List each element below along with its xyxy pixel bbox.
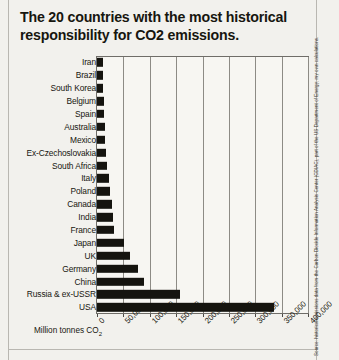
category-label: UK [85, 251, 96, 261]
category-label: South Africa [52, 161, 96, 171]
bar [97, 239, 124, 247]
bar [97, 71, 103, 79]
bar-row: France [0, 224, 339, 237]
category-label: Poland [71, 186, 96, 196]
category-label: South Korea [51, 83, 96, 93]
bar [97, 123, 105, 131]
bar-row: South Africa [0, 159, 339, 172]
source-note: Source: historical emissions data from t… [314, 37, 319, 356]
bar-row: India [0, 211, 339, 224]
category-label: Japan [74, 238, 96, 248]
bar [97, 200, 112, 208]
bar [97, 226, 114, 234]
bar-row: Poland [0, 185, 339, 198]
tick-label: 0 [97, 316, 106, 325]
bar [97, 252, 130, 260]
bar [97, 187, 110, 195]
bar-rows: IranBrazilSouth KoreaBelgiumSpainAustral… [0, 56, 339, 314]
bar-row: Iran [0, 56, 339, 69]
category-label: USA [79, 302, 96, 312]
category-label: Italy [81, 173, 96, 183]
bar [97, 277, 144, 285]
bar [97, 290, 180, 298]
category-label: France [71, 225, 96, 235]
bar-row: Italy [0, 172, 339, 185]
category-label: Australia [64, 122, 96, 132]
category-label: Ex-Czechoslovakia [26, 148, 96, 158]
category-label: Spain [75, 109, 96, 119]
chart-title-line-2: responsibility for CO2 emissions. [20, 26, 292, 44]
bar-chart: IranBrazilSouth KoreaBelgiumSpainAustral… [0, 52, 339, 322]
category-label: Belgium [66, 96, 96, 106]
bar [97, 84, 103, 92]
bar-row: UK [0, 249, 339, 262]
x-axis-title: Million tonnes CO2 [34, 326, 102, 337]
x-axis-title-text: Million tonnes CO [34, 326, 99, 335]
bar-row: Spain [0, 108, 339, 121]
x-axis-ticks: 050,000100,000150,000200,000250,000300,0… [96, 314, 310, 360]
bar [97, 58, 103, 66]
tick-mark [203, 314, 204, 317]
bar [97, 161, 107, 169]
bar [97, 136, 105, 144]
bar-row: Mexico [0, 133, 339, 146]
bar-row: Belgium [0, 95, 339, 108]
bar-row: Ex-Czechoslovakia [0, 146, 339, 159]
category-label: China [75, 277, 96, 287]
bar [97, 110, 104, 118]
chart-title-line-1: The 20 countries with the most historica… [20, 8, 292, 26]
bar [97, 264, 138, 272]
bar [97, 97, 104, 105]
bar-row: Germany [0, 262, 339, 275]
bar-row: Australia [0, 120, 339, 133]
category-label: Germany [62, 264, 96, 274]
category-label: India [78, 212, 96, 222]
x-axis-title-subscript: 2 [99, 331, 102, 337]
category-label: Mexico [70, 135, 96, 145]
chart-title: The 20 countries with the most historica… [20, 8, 292, 44]
category-label: Iran [82, 57, 96, 67]
bar [97, 174, 109, 182]
chart-page: The 20 countries with the most historica… [0, 0, 339, 360]
category-label: Canada [67, 199, 96, 209]
bar-row: Japan [0, 236, 339, 249]
bar [97, 213, 113, 221]
bar [97, 148, 106, 156]
bar-row: South Korea [0, 82, 339, 95]
category-label: Brazil [76, 70, 96, 80]
bar-row: China [0, 275, 339, 288]
category-label: Russia & ex-USSR [27, 289, 96, 299]
bar-row: Canada [0, 198, 339, 211]
bar-row: Brazil [0, 69, 339, 82]
